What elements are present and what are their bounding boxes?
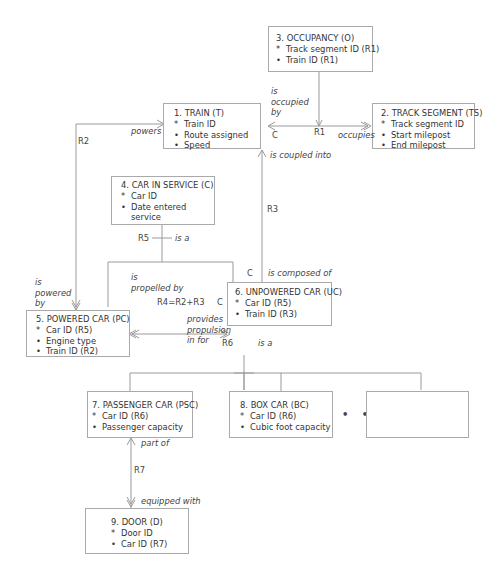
attribute: •Start milepost — [381, 130, 470, 141]
r6-label: R6 — [222, 338, 233, 349]
entity-box-car[interactable]: 8. BOX CAR (BC) *Car ID (R6) •Cubic foot… — [229, 391, 333, 438]
r3-label: R3 — [267, 204, 278, 215]
entity-title: 4. CAR IN SERVICE (C) — [121, 180, 210, 191]
entity-title: 3. OCCUPANCY (O) — [276, 33, 368, 44]
entity-door[interactable]: 9. DOOR (D) *Door ID •Car ID (R7) — [85, 508, 189, 554]
attribute: *Track segment ID (R1) — [276, 44, 368, 55]
attribute: •Train ID (R3) — [235, 309, 327, 320]
entity-train[interactable]: 1. TRAIN (T) *Train ID •Route assigned •… — [163, 103, 261, 149]
r4-label: R4=R2+R3 — [157, 297, 204, 308]
r4-conditional: C — [217, 297, 223, 308]
entity-title: 1. TRAIN (T) — [174, 108, 256, 119]
attribute: •Passenger capacity — [92, 422, 188, 433]
entity-passenger-car[interactable]: 7. PASSENGER CAR (PSC) *Car ID (R6) •Pas… — [87, 391, 193, 438]
attribute: *Door ID — [111, 528, 184, 539]
r1-phrase-is-occupied: isoccupiedby — [271, 86, 309, 118]
attribute: •Train ID (R1) — [276, 55, 368, 66]
entity-title: 5. POWERED CAR (PC) — [36, 314, 125, 325]
entity-placeholder[interactable] — [366, 391, 469, 438]
r4-phrase-is-propelled-by: ispropelled by — [131, 272, 183, 293]
entity-powered-car[interactable]: 5. POWERED CAR (PC) *Car ID (R5) •Engine… — [26, 310, 130, 357]
entity-unpowered-car[interactable]: 6. UNPOWERED CAR (UC) *Car ID (R5) •Trai… — [227, 282, 332, 326]
r7-phrase-equipped-with: equipped with — [141, 496, 201, 507]
entity-title: 7. PASSENGER CAR (PSC) — [92, 400, 188, 411]
attribute: *Train ID — [174, 119, 256, 130]
entity-track-segment[interactable]: 2. TRACK SEGMENT (TS) *Track segment ID … — [372, 103, 475, 149]
attribute: *Car ID (R6) — [240, 411, 328, 422]
r7-phrase-part-of: part of — [141, 438, 169, 449]
attribute: *Car ID (R5) — [235, 298, 327, 309]
r7-label: R7 — [134, 465, 145, 476]
r5-label: R5 — [138, 233, 149, 244]
r1-conditional: C — [272, 130, 278, 141]
r2-label: R2 — [78, 136, 89, 147]
attribute: •Cubic foot capacity — [240, 422, 328, 433]
r3-conditional-b: C — [247, 268, 253, 279]
entity-title: 9. DOOR (D) — [111, 517, 184, 528]
entity-car-in-service[interactable]: 4. CAR IN SERVICE (C) *Car ID •Date ente… — [111, 176, 215, 225]
r1-phrase-occupies: occupies — [338, 130, 375, 141]
r6-phrase-is-a: is a — [258, 338, 273, 349]
attribute: •Train ID (R2) — [36, 346, 125, 357]
entity-title: 2. TRACK SEGMENT (TS) — [381, 108, 470, 119]
attribute: •Engine type — [36, 336, 125, 347]
r5-phrase-is-a: is a — [175, 233, 190, 244]
attribute: *Car ID (R5) — [36, 325, 125, 336]
attribute: *Car ID (R6) — [92, 411, 188, 422]
r3-phrase-is-coupled-into: is coupled into — [270, 150, 331, 161]
attribute: service — [121, 212, 210, 223]
entity-title: 6. UNPOWERED CAR (UC) — [235, 287, 327, 298]
r1-label: R1 — [314, 127, 325, 138]
attribute: *Car ID — [121, 191, 210, 202]
attribute: *Track segment ID — [381, 119, 470, 130]
entity-occupancy[interactable]: 3. OCCUPANCY (O) *Track segment ID (R1) … — [268, 26, 373, 72]
r2-phrase-powers: powers — [131, 126, 161, 137]
attribute: •Car ID (R7) — [111, 539, 184, 550]
attribute: •Date entered — [121, 202, 210, 213]
attribute: •End milepost — [381, 140, 470, 151]
attribute: •Route assigned — [174, 130, 256, 141]
r3-phrase-is-composed-of: is composed of — [268, 268, 331, 279]
entity-title: 8. BOX CAR (BC) — [240, 400, 328, 411]
r2-phrase-is-powered-by: ispoweredby — [35, 277, 71, 309]
attribute: •Speed — [174, 140, 256, 151]
